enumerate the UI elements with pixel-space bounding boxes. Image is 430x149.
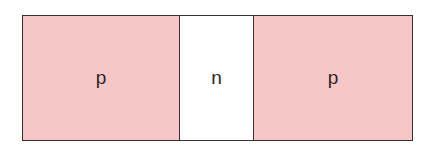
p-region-right-label: p [328,67,339,89]
n-region-label: n [211,67,222,89]
p-region-right: p [254,16,412,140]
p-region-left-label: p [96,67,107,89]
pnp-structure: p n p [22,15,413,141]
p-region-left: p [23,16,180,140]
n-region-middle: n [180,16,254,140]
